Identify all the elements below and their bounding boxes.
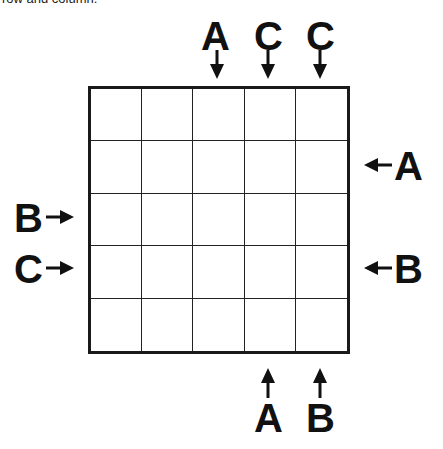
grid-cell-r2c4[interactable] bbox=[245, 141, 296, 193]
grid-cell-r3c3[interactable] bbox=[193, 194, 244, 246]
grid-cell-r2c2[interactable] bbox=[142, 141, 193, 193]
arrow-down-icon bbox=[312, 50, 328, 80]
arrow-up-icon bbox=[260, 368, 276, 398]
bottom-clue-col4: A bbox=[254, 398, 283, 438]
bottom-clue-col5: B bbox=[306, 398, 335, 438]
arrow-left-icon bbox=[364, 157, 392, 173]
grid-cell-r1c4[interactable] bbox=[245, 89, 296, 141]
grid-cell-r2c5[interactable] bbox=[296, 141, 347, 193]
grid-cell-r4c4[interactable] bbox=[245, 246, 296, 298]
right-clue-row4: B bbox=[394, 249, 423, 289]
arrow-left-icon bbox=[364, 260, 392, 276]
puzzle-grid bbox=[88, 86, 350, 354]
grid-cell-r2c3[interactable] bbox=[193, 141, 244, 193]
grid-cell-r4c1[interactable] bbox=[91, 246, 142, 298]
arrow-right-icon bbox=[46, 260, 74, 276]
grid-cell-r4c2[interactable] bbox=[142, 246, 193, 298]
grid-cell-r1c3[interactable] bbox=[193, 89, 244, 141]
arrow-down-icon bbox=[209, 50, 225, 80]
left-clue-row3: B bbox=[14, 198, 43, 238]
grid-cell-r1c5[interactable] bbox=[296, 89, 347, 141]
grid-cell-r3c2[interactable] bbox=[142, 194, 193, 246]
arrow-down-icon bbox=[260, 50, 276, 80]
grid-cell-r2c1[interactable] bbox=[91, 141, 142, 193]
grid-cell-r5c5[interactable] bbox=[296, 299, 347, 351]
grid-cell-r5c4[interactable] bbox=[245, 299, 296, 351]
arrow-right-icon bbox=[46, 209, 74, 225]
arrow-up-icon bbox=[312, 368, 328, 398]
grid-cell-r4c5[interactable] bbox=[296, 246, 347, 298]
grid-cell-r5c3[interactable] bbox=[193, 299, 244, 351]
grid-cell-r5c1[interactable] bbox=[91, 299, 142, 351]
grid-cell-r1c1[interactable] bbox=[91, 89, 142, 141]
right-clue-row2: A bbox=[394, 146, 423, 186]
grid-cell-r1c2[interactable] bbox=[142, 89, 193, 141]
grid-cell-r5c2[interactable] bbox=[142, 299, 193, 351]
left-clue-row4: C bbox=[14, 249, 43, 289]
grid-cell-r3c4[interactable] bbox=[245, 194, 296, 246]
grid-cell-r3c1[interactable] bbox=[91, 194, 142, 246]
instruction-caption: row and column. bbox=[2, 0, 97, 6]
grid-cell-r3c5[interactable] bbox=[296, 194, 347, 246]
grid-cell-r4c3[interactable] bbox=[193, 246, 244, 298]
